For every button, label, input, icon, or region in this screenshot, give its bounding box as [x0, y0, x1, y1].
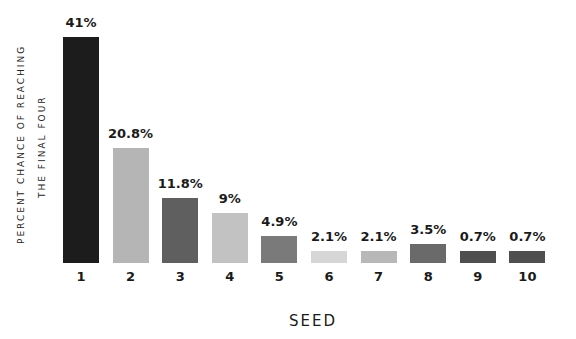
x-tick-label: 9	[458, 269, 498, 284]
bar-seed-2	[113, 148, 149, 263]
value-label: 41%	[51, 15, 111, 30]
value-label: 11.8%	[150, 176, 210, 191]
bar-seed-4	[212, 213, 248, 263]
y-axis-label-line-1: PERCENT CHANCE OF REACHING	[16, 45, 26, 244]
value-label: 9%	[200, 191, 260, 206]
y-axis-label-line-2: THE FINAL FOUR	[37, 95, 47, 198]
x-tick-label: 3	[160, 269, 200, 284]
bar-seed-9	[460, 251, 496, 263]
x-tick-label: 5	[259, 269, 299, 284]
bar-seed-1	[63, 37, 99, 263]
x-tick-label: 2	[111, 269, 151, 284]
bar-seed-10	[509, 251, 545, 263]
value-label: 20.8%	[101, 126, 161, 141]
bar-seed-3	[162, 198, 198, 263]
bar-seed-7	[361, 251, 397, 263]
value-label: 4.9%	[249, 214, 309, 229]
x-tick-label: 7	[359, 269, 399, 284]
bar-seed-8	[410, 244, 446, 263]
value-label: 0.7%	[497, 229, 557, 244]
x-axis-label: SEED	[0, 312, 576, 330]
x-tick-label: 8	[408, 269, 448, 284]
x-tick-label: 1	[61, 269, 101, 284]
bar-seed-6	[311, 251, 347, 263]
bar-seed-5	[261, 236, 297, 263]
x-tick-label: 4	[210, 269, 250, 284]
x-tick-label: 6	[309, 269, 349, 284]
x-tick-label: 10	[507, 269, 547, 284]
